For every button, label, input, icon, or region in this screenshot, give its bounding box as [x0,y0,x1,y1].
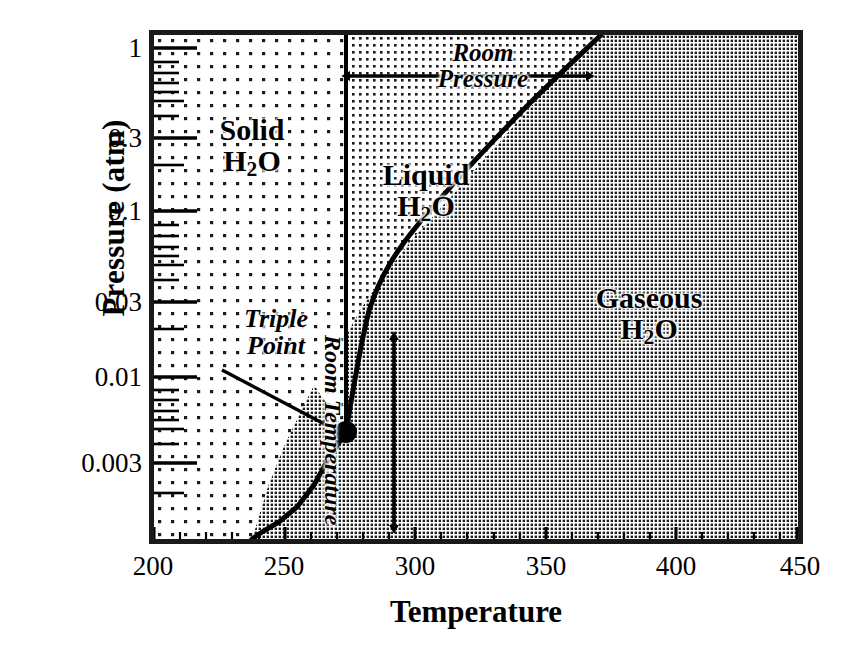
room-temperature-annotation: Room Temperature [321,335,345,545]
y-tick-label: 0.003 [81,448,142,479]
x-tick-label: 450 [780,551,821,582]
region-label-solid-formula: H2O [223,144,280,177]
x-tick-label: 400 [656,551,697,582]
region-label-liquid: Liquid H2O [346,160,506,224]
x-tick-label: 350 [526,551,567,582]
region-label-solid-line1: Solid [219,113,284,146]
room-pressure-line2: Pressure [438,65,528,92]
region-label-solid: Solid H2O [172,115,332,179]
y-tick-label: 0.3 [108,123,142,154]
room-pressure-line1: Room [452,39,513,66]
x-axis-title: Temperature [149,594,803,630]
y-tick-label: 1 [129,33,143,64]
x-tick-label: 200 [133,551,174,582]
region-label-liquid-line1: Liquid [383,158,470,191]
y-tick-label: 0.1 [108,196,142,227]
phase-diagram-figure: Pressure (atm) 1 0.3 0.1 0.03 0.01 0.003… [0,0,854,664]
y-tick-label: 0.01 [95,362,142,393]
region-label-liquid-formula: H2O [397,189,454,222]
y-tick-label: 0.03 [95,287,142,318]
region-label-gaseous-formula: H2O [620,312,677,345]
plot-area: Solid H2O Liquid H2O Gaseous H2O [154,35,798,539]
triple-point-line2: Point [247,331,305,360]
x-tick-label: 250 [264,551,305,582]
triple-point-annotation: Triple Point [206,306,346,359]
plot-frame: Solid H2O Liquid H2O Gaseous H2O [149,30,803,544]
room-pressure-annotation: Room Pressure [398,40,568,91]
region-label-gaseous-line1: Gaseous [596,281,703,314]
x-tick-label: 300 [395,551,436,582]
y-axis-tick-labels: 1 0.3 0.1 0.03 0.01 0.003 [0,0,142,664]
region-label-gaseous: Gaseous H2O [549,283,749,347]
triple-point-line1: Triple [244,304,308,333]
